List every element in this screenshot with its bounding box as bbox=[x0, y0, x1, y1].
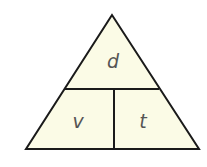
triangle-outline bbox=[26, 15, 199, 149]
bottom-left-label: v bbox=[72, 110, 84, 132]
top-label: d bbox=[107, 50, 120, 72]
formula-triangle: d v t bbox=[0, 0, 207, 167]
